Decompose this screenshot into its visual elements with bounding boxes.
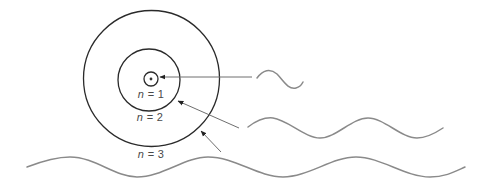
nucleus-icon [150,78,153,81]
wave-short [257,71,303,89]
label-value: = 3 [144,148,164,160]
orbit-label-n3: n = 3 [138,148,164,160]
orbits [84,11,220,147]
waves [27,71,465,177]
bohr-atom-diagram [0,0,495,191]
orbit-label-n1: n = 1 [138,88,164,100]
arrow-to-n2 [178,101,239,128]
wave-medium [248,118,443,138]
orbit-label-n2: n = 2 [137,111,163,123]
arrows [160,77,252,152]
wave-long [27,157,465,177]
arrow-to-n3 [201,131,221,152]
orbit-n2 [118,49,180,111]
label-value: = 1 [144,88,164,100]
label-value: = 2 [143,111,163,123]
